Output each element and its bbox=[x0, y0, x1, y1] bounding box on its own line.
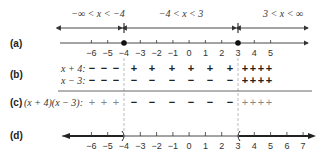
svg-text:−: − bbox=[227, 96, 233, 108]
part-a-label: (a) bbox=[10, 38, 22, 49]
svg-text:−1: −1 bbox=[168, 48, 178, 58]
svg-text:+: + bbox=[242, 96, 248, 108]
svg-text:−: − bbox=[149, 96, 155, 108]
svg-text:+: + bbox=[258, 74, 264, 86]
svg-text:+: + bbox=[250, 96, 256, 108]
svg-text:−: − bbox=[101, 74, 107, 86]
tick-labels-d: −6 −5 −4 −3 −2 −1 0 1 2 3 4 5 6 7 bbox=[86, 141, 305, 151]
svg-text:−: − bbox=[131, 74, 137, 86]
product-label: (x + 4)(x − 3): bbox=[24, 97, 83, 109]
factor2-label: x − 3: bbox=[60, 75, 86, 86]
interval-label-left: −∞ < x < −4 bbox=[71, 8, 125, 19]
guide-lines bbox=[124, 58, 238, 132]
svg-text:3: 3 bbox=[235, 141, 240, 151]
svg-text:−: − bbox=[188, 74, 194, 86]
factor1-label: x + 4: bbox=[60, 63, 86, 74]
svg-text:−: − bbox=[149, 74, 155, 86]
svg-text:−: − bbox=[169, 74, 175, 86]
svg-text:6: 6 bbox=[284, 141, 289, 151]
number-line-a bbox=[60, 40, 308, 46]
svg-text:−: − bbox=[207, 96, 213, 108]
svg-text:+: + bbox=[266, 96, 272, 108]
part-d-label: (d) bbox=[10, 130, 23, 141]
factor1-signs: − − − + + + + + + + + + + bbox=[89, 62, 272, 74]
tick-labels-a: −6 −5 −4 −3 −2 −1 0 1 2 3 4 5 bbox=[86, 48, 273, 58]
svg-text:−: − bbox=[113, 74, 119, 86]
svg-text:+: + bbox=[131, 62, 137, 74]
interval-arrows bbox=[60, 23, 308, 33]
critical-point-3 bbox=[235, 40, 241, 46]
svg-text:+: + bbox=[266, 62, 272, 74]
svg-text:7: 7 bbox=[301, 141, 306, 151]
svg-text:−: − bbox=[188, 96, 194, 108]
svg-text:+: + bbox=[89, 96, 95, 108]
svg-text:−3: −3 bbox=[135, 48, 145, 58]
interval-label-middle: −4 < x < 3 bbox=[159, 8, 204, 19]
svg-text:−6: −6 bbox=[86, 48, 96, 58]
part-c-label: (c) bbox=[10, 97, 22, 108]
svg-text:3: 3 bbox=[235, 48, 240, 58]
svg-text:+: + bbox=[169, 62, 175, 74]
factor2-signs: − − − − − − − − − + + + + bbox=[89, 74, 272, 86]
svg-text:+: + bbox=[113, 96, 119, 108]
svg-text:−5: −5 bbox=[103, 141, 113, 151]
svg-text:+: + bbox=[242, 74, 248, 86]
svg-text:−: − bbox=[101, 62, 107, 74]
svg-text:−2: −2 bbox=[151, 48, 161, 58]
svg-text:+: + bbox=[250, 74, 256, 86]
svg-text:+: + bbox=[227, 62, 233, 74]
svg-text:+: + bbox=[258, 62, 264, 74]
svg-text:5: 5 bbox=[268, 48, 273, 58]
svg-text:1: 1 bbox=[203, 48, 208, 58]
svg-text:+: + bbox=[250, 62, 256, 74]
product-signs: + + + − − − − − − + + + + bbox=[89, 96, 272, 108]
svg-text:−1: −1 bbox=[168, 141, 178, 151]
svg-text:−2: −2 bbox=[151, 141, 161, 151]
interval-label-right: 3 < x < ∞ bbox=[262, 8, 303, 19]
part-b-label: (b) bbox=[10, 69, 23, 80]
svg-text:2: 2 bbox=[219, 48, 224, 58]
svg-text:−: − bbox=[113, 62, 119, 74]
svg-text:+: + bbox=[207, 62, 213, 74]
svg-text:−4: −4 bbox=[119, 48, 129, 58]
svg-text:−6: −6 bbox=[86, 141, 96, 151]
svg-text:5: 5 bbox=[268, 141, 273, 151]
sign-chart-diagram: −∞ < x < −4 −4 < x < 3 3 < x < ∞ (a) bbox=[0, 0, 333, 158]
svg-text:−3: −3 bbox=[135, 141, 145, 151]
svg-text:+: + bbox=[188, 62, 194, 74]
svg-text:−: − bbox=[169, 96, 175, 108]
svg-text:−4: −4 bbox=[119, 141, 129, 151]
svg-text:+: + bbox=[266, 74, 272, 86]
svg-text:0: 0 bbox=[187, 48, 192, 58]
svg-text:−: − bbox=[207, 74, 213, 86]
svg-text:4: 4 bbox=[252, 48, 257, 58]
svg-text:+: + bbox=[258, 96, 264, 108]
svg-text:0: 0 bbox=[187, 141, 192, 151]
svg-text:+: + bbox=[242, 62, 248, 74]
svg-text:4: 4 bbox=[252, 141, 257, 151]
svg-text:1: 1 bbox=[203, 141, 208, 151]
svg-text:+: + bbox=[149, 62, 155, 74]
svg-text:−: − bbox=[131, 96, 137, 108]
svg-text:−: − bbox=[227, 74, 233, 86]
critical-point-neg4 bbox=[121, 40, 127, 46]
svg-text:+: + bbox=[101, 96, 107, 108]
svg-text:−5: −5 bbox=[103, 48, 113, 58]
svg-text:2: 2 bbox=[219, 141, 224, 151]
svg-text:−: − bbox=[89, 74, 95, 86]
number-line-d bbox=[62, 131, 316, 141]
svg-text:−: − bbox=[89, 62, 95, 74]
